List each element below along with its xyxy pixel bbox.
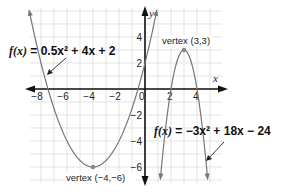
equation-label-f1: f(x) = 0.5x² + 4x + 2 (9, 44, 115, 59)
x-tick-label: −6 (57, 91, 69, 102)
vertex-label-f2: vertex (3,3) (162, 35, 210, 46)
pointer-arrow-f1 (47, 58, 66, 75)
x-axis-label: x (212, 72, 218, 84)
equation-f1-function: f(x) (9, 44, 27, 58)
y-tick-label: 4 (136, 32, 142, 43)
vertex-point-f1 (91, 165, 95, 169)
equation-f2-rhs: = −3x² + 18x − 24 (172, 124, 271, 138)
equation-f1-rhs: = 0.5x² + 4x + 2 (27, 44, 115, 58)
y-tick-label: −4 (131, 136, 143, 147)
pointer-arrow-f2 (206, 142, 224, 161)
equation-f2-function: f(x) (154, 124, 172, 138)
vertex-point-f2 (182, 48, 186, 52)
y-tick-label: −2 (131, 110, 143, 121)
graph-canvas: y x −8−6−4−2024 42−2−4−6 vertex (−4,−6) … (0, 0, 292, 192)
x-tick-label: −2 (109, 91, 121, 102)
y-axis-down-arrow-icon (142, 176, 149, 186)
y-axis-label: y (148, 7, 154, 19)
x-tick-label: −4 (83, 91, 95, 102)
x-tick-labels: −8−6−4−2024 (31, 91, 199, 102)
y-tick-labels: 42−2−4−6 (131, 32, 143, 173)
y-tick-label: 2 (136, 58, 142, 69)
x-axis-right-arrow-icon (218, 86, 228, 93)
x-tick-label: −8 (31, 91, 43, 102)
vertex-label-f1: vertex (−4,−6) (66, 172, 125, 183)
equation-label-f2: f(x) = −3x² + 18x − 24 (154, 124, 271, 139)
x-tick-label: 0 (139, 91, 145, 102)
